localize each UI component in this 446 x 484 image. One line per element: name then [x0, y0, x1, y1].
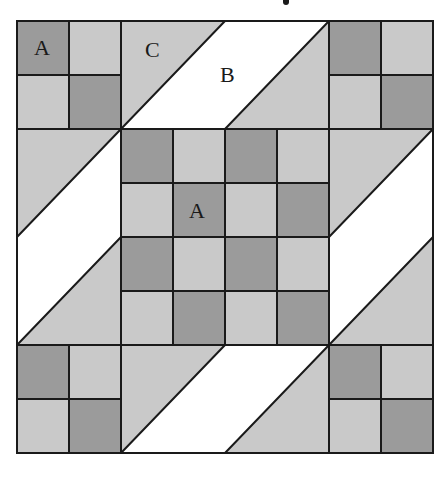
four-patch-square-top-left	[69, 21, 121, 75]
four-patch-square-bottom-right	[329, 399, 381, 453]
center-square	[225, 183, 277, 237]
center-square	[277, 237, 329, 291]
center-square	[225, 237, 277, 291]
four-patch-square-bottom-right	[381, 399, 433, 453]
four-patch-square-top-right	[329, 21, 381, 75]
four-patch-square-top-right	[381, 75, 433, 129]
center-square	[277, 129, 329, 183]
center-square	[173, 237, 225, 291]
four-patch-square-top-right	[381, 21, 433, 75]
center-square	[173, 291, 225, 345]
center-square	[225, 129, 277, 183]
four-patch-square-top-left	[69, 75, 121, 129]
four-patch-square-top-right	[329, 75, 381, 129]
patch-label-a: A	[189, 198, 205, 223]
center-square	[121, 183, 173, 237]
four-patch-square-bottom-right	[329, 345, 381, 399]
four-patch-square-bottom-left	[69, 399, 121, 453]
quilt-block-diagram: ACBA	[0, 0, 446, 484]
four-patch-square-bottom-left	[17, 399, 69, 453]
four-patch-square-bottom-left	[17, 345, 69, 399]
center-square	[173, 129, 225, 183]
patch-label-a: A	[34, 35, 50, 60]
center-square	[277, 183, 329, 237]
center-square	[277, 291, 329, 345]
four-patch-square-top-left	[17, 75, 69, 129]
center-square	[225, 291, 277, 345]
patch-label-b: B	[220, 62, 235, 87]
four-patch-square-bottom-right	[381, 345, 433, 399]
center-square	[121, 237, 173, 291]
center-square	[121, 129, 173, 183]
patch-label-c: C	[145, 37, 160, 62]
center-square	[121, 291, 173, 345]
four-patch-square-bottom-left	[69, 345, 121, 399]
